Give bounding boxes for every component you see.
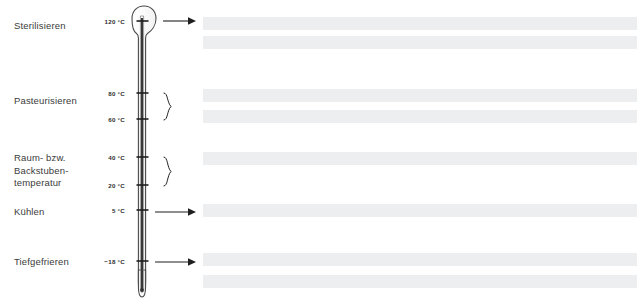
zone-label-kuehlen: Kühlen [14, 206, 44, 219]
temperature-label-5: 5 °C [91, 207, 125, 214]
temperature-label-−18: −18 °C [91, 258, 125, 265]
redacted-text-bar-2 [203, 36, 637, 49]
diagram-page: SterilisierenPasteurisierenRaum- bzw. Ba… [0, 0, 644, 307]
redacted-text-bar-8 [203, 275, 637, 288]
brace-pasteurisieren-connector [162, 90, 174, 123]
redacted-text-bar-1 [203, 17, 637, 30]
redacted-text-bar-6 [203, 204, 637, 217]
redacted-text-bar-7 [203, 253, 637, 266]
temperature-label-60: 60 °C [91, 116, 125, 123]
arrow-sterilisieren-connector [163, 15, 198, 27]
zone-label-pasteurisieren: Pasteurisieren [14, 95, 77, 108]
thermometer-mercury-bulb [140, 288, 144, 292]
arrow-kuehlen-connector [155, 206, 198, 218]
redacted-text-bar-3 [203, 89, 637, 102]
temperature-label-80: 80 °C [91, 90, 125, 97]
redacted-text-bar-4 [203, 110, 637, 123]
temperature-label-20: 20 °C [91, 182, 125, 189]
zone-label-tiefgefrieren: Tiefgefrieren [14, 256, 69, 269]
temperature-label-120: 120 °C [91, 18, 125, 25]
zone-label-raumtemperatur: Raum- bzw. Backstuben- temperatur [14, 152, 68, 190]
brace-raumtemperatur-connector [162, 154, 174, 189]
zone-label-sterilisieren: Sterilisieren [14, 20, 66, 33]
thermometer-glass-body [132, 6, 156, 291]
arrow-tiefgefrieren-connector [155, 256, 198, 268]
redacted-text-bar-5 [203, 152, 637, 165]
thermometer-mercury-column [141, 18, 143, 290]
temperature-label-40: 40 °C [91, 154, 125, 161]
